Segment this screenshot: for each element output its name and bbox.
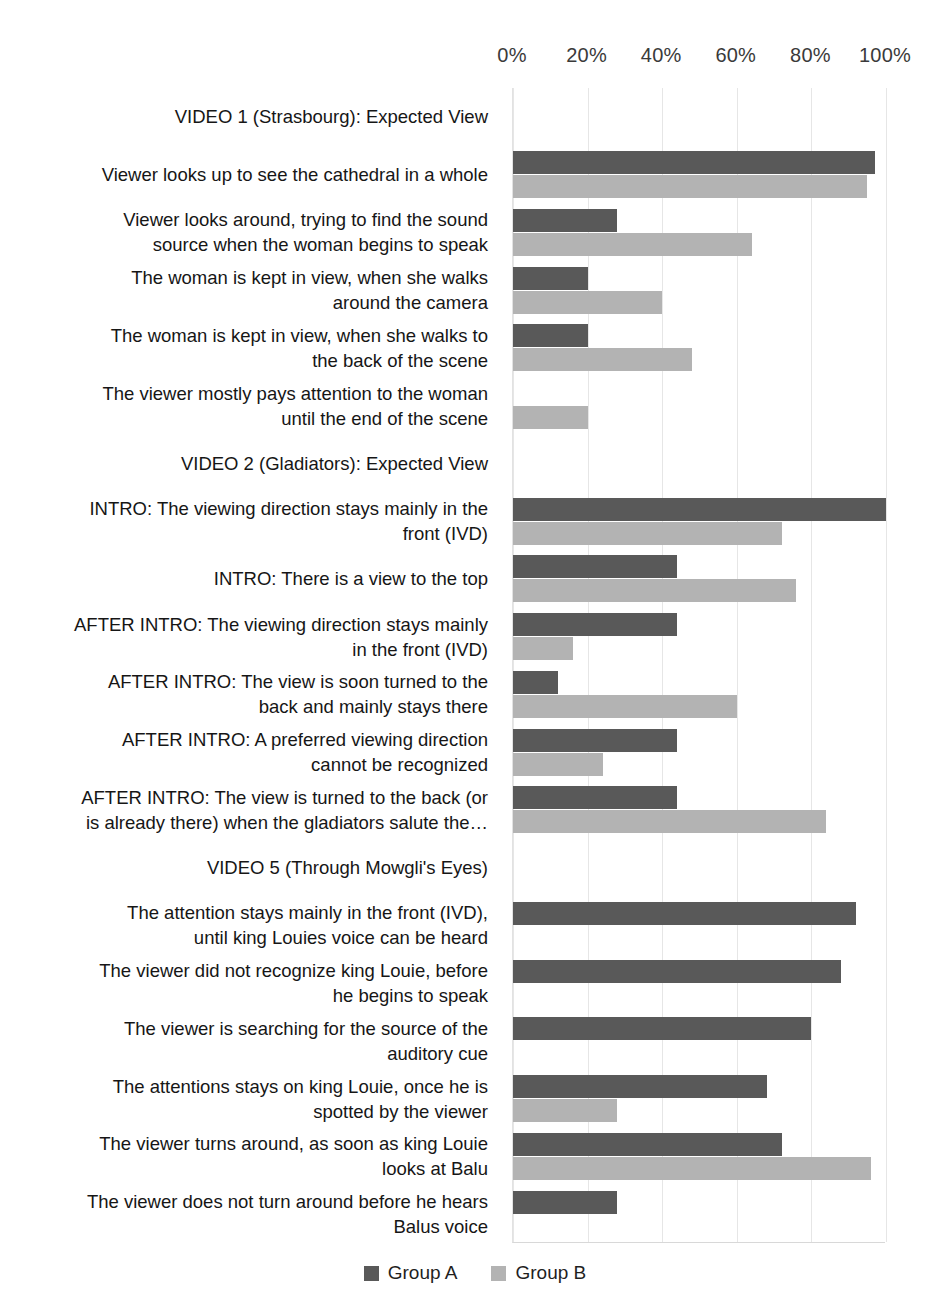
x-tick-label: 0% bbox=[497, 44, 526, 67]
bar-group-b bbox=[513, 233, 752, 256]
x-tick-label: 80% bbox=[790, 44, 831, 67]
bar-group-a bbox=[513, 555, 677, 578]
legend-item[interactable]: Group A bbox=[364, 1262, 458, 1284]
category-label: VIDEO 1 (Strasbourg): Expected View bbox=[18, 104, 488, 129]
bar-group-b bbox=[513, 695, 737, 718]
bar-group-b bbox=[513, 579, 796, 602]
grouped-bar-chart: 0%20%40%60%80%100% VIDEO 1 (Strasbourg):… bbox=[0, 0, 950, 1300]
bar-row bbox=[513, 839, 885, 897]
legend-swatch-icon bbox=[491, 1266, 506, 1281]
bar-group-b bbox=[513, 753, 603, 776]
category-label: The viewer did not recognize king Louie,… bbox=[18, 958, 488, 1008]
bar-row bbox=[513, 435, 885, 493]
bar-group-a bbox=[513, 151, 875, 174]
bar-row bbox=[513, 954, 885, 1012]
bar-group-b bbox=[513, 348, 692, 371]
bar-row bbox=[513, 1070, 885, 1128]
bar-row bbox=[513, 608, 885, 666]
bar-group-b bbox=[513, 406, 588, 429]
category-label: The viewer turns around, as soon as king… bbox=[18, 1131, 488, 1181]
legend-label: Group B bbox=[515, 1262, 586, 1284]
legend-swatch-icon bbox=[364, 1266, 379, 1281]
x-tick-label: 100% bbox=[859, 44, 911, 67]
bar-group-a bbox=[513, 1191, 617, 1214]
bar-rows bbox=[513, 88, 885, 1242]
bar-row bbox=[513, 1128, 885, 1186]
category-label: AFTER INTRO: The view is soon turned to … bbox=[18, 669, 488, 719]
bar-group-b bbox=[513, 810, 826, 833]
category-label: VIDEO 5 (Through Mowgli's Eyes) bbox=[18, 855, 488, 880]
x-axis-tick-labels: 0%20%40%60%80%100% bbox=[0, 44, 950, 70]
category-label: The viewer mostly pays attention to the … bbox=[18, 381, 488, 431]
bar-group-a bbox=[513, 729, 677, 752]
bar-row bbox=[513, 88, 885, 146]
x-tick-label: 60% bbox=[715, 44, 756, 67]
bar-row bbox=[513, 897, 885, 955]
bar-group-b bbox=[513, 291, 662, 314]
plot-area bbox=[512, 88, 885, 1243]
bar-row bbox=[513, 666, 885, 724]
legend-label: Group A bbox=[388, 1262, 458, 1284]
category-label: Viewer looks around, trying to find the … bbox=[18, 207, 488, 257]
bar-row bbox=[513, 550, 885, 608]
category-label: AFTER INTRO: The view is turned to the b… bbox=[18, 785, 488, 835]
category-label: The attention stays mainly in the front … bbox=[18, 900, 488, 950]
bar-group-a bbox=[513, 1017, 811, 1040]
bar-group-a bbox=[513, 267, 588, 290]
bar-row bbox=[513, 492, 885, 550]
bar-group-b bbox=[513, 1099, 617, 1122]
bar-group-a bbox=[513, 613, 677, 636]
category-label: AFTER INTRO: The viewing direction stays… bbox=[18, 612, 488, 662]
bar-group-a bbox=[513, 498, 886, 521]
category-label: VIDEO 2 (Gladiators): Expected View bbox=[18, 451, 488, 476]
gridline bbox=[886, 88, 887, 1242]
bar-group-b bbox=[513, 522, 782, 545]
bar-row bbox=[513, 146, 885, 204]
category-label: AFTER INTRO: A preferred viewing directi… bbox=[18, 727, 488, 777]
bar-group-a bbox=[513, 209, 617, 232]
category-label: Viewer looks up to see the cathedral in … bbox=[18, 162, 488, 187]
bar-group-b bbox=[513, 637, 573, 660]
bar-row bbox=[513, 1185, 885, 1243]
bar-group-a bbox=[513, 1133, 782, 1156]
bar-group-a bbox=[513, 324, 588, 347]
bar-group-a bbox=[513, 1075, 767, 1098]
legend-item[interactable]: Group B bbox=[491, 1262, 586, 1284]
category-label: INTRO: The viewing direction stays mainl… bbox=[18, 496, 488, 546]
category-label: The viewer does not turn around before h… bbox=[18, 1189, 488, 1239]
category-label: The attentions stays on king Louie, once… bbox=[18, 1074, 488, 1124]
bar-row bbox=[513, 1012, 885, 1070]
x-tick-label: 40% bbox=[641, 44, 682, 67]
bar-row bbox=[513, 723, 885, 781]
bar-group-b bbox=[513, 1157, 871, 1180]
category-label: The viewer is searching for the source o… bbox=[18, 1016, 488, 1066]
bar-row bbox=[513, 781, 885, 839]
bar-group-a bbox=[513, 786, 677, 809]
bar-group-a bbox=[513, 960, 841, 983]
bar-row bbox=[513, 204, 885, 262]
category-label: INTRO: There is a view to the top bbox=[18, 566, 488, 591]
x-tick-label: 20% bbox=[566, 44, 607, 67]
bar-group-a bbox=[513, 902, 856, 925]
bar-group-a bbox=[513, 671, 558, 694]
bar-row bbox=[513, 261, 885, 319]
bar-group-b bbox=[513, 175, 867, 198]
category-axis-labels: VIDEO 1 (Strasbourg): Expected ViewViewe… bbox=[0, 88, 500, 1243]
bar-row bbox=[513, 319, 885, 377]
category-label: The woman is kept in view, when she walk… bbox=[18, 323, 488, 373]
category-label: The woman is kept in view, when she walk… bbox=[18, 265, 488, 315]
bar-row bbox=[513, 377, 885, 435]
chart-legend: Group AGroup B bbox=[0, 1262, 950, 1284]
